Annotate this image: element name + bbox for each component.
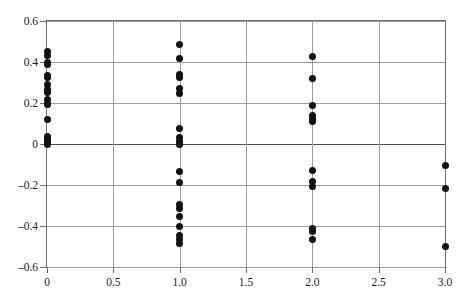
data-point: [44, 116, 51, 123]
data-point: [309, 118, 316, 125]
data-point: [44, 101, 51, 108]
data-point: [309, 183, 316, 190]
data-point: [44, 74, 51, 81]
data-point: [176, 41, 183, 48]
data-point: [176, 168, 183, 175]
gridline-vertical: [246, 21, 247, 267]
gridline-vertical: [379, 21, 380, 267]
y-axis-tick: [40, 185, 47, 186]
data-point: [309, 75, 316, 82]
x-axis-tick-label: 0.5: [106, 276, 120, 288]
x-axis-tick: [47, 267, 48, 273]
x-axis-tick: [312, 267, 313, 273]
data-point: [442, 162, 449, 169]
data-point: [176, 205, 183, 212]
data-point: [176, 240, 183, 247]
data-point: [309, 167, 316, 174]
x-axis-tick-label: 1.5: [239, 276, 253, 288]
x-axis-tick-label: 3.0: [438, 276, 452, 288]
data-point: [442, 243, 449, 250]
y-axis-tick: [40, 267, 47, 268]
x-axis-tick: [180, 267, 181, 273]
y-axis-tick-label: 0: [32, 138, 38, 150]
data-point: [176, 125, 183, 132]
data-point: [44, 61, 51, 68]
x-axis-tick-label: 1.0: [172, 276, 186, 288]
data-point: [309, 53, 316, 60]
y-axis-tick-label: –0.2: [18, 179, 38, 191]
data-point: [44, 89, 51, 96]
y-axis-tick-label: –0.6: [18, 261, 38, 273]
data-point: [176, 141, 183, 148]
x-axis-tick: [246, 267, 247, 273]
x-axis-tick-label: 0: [44, 276, 50, 288]
x-axis-tick: [379, 267, 380, 273]
data-point: [176, 223, 183, 230]
y-axis-tick-label: 0.2: [24, 97, 38, 109]
x-axis-tick: [113, 267, 114, 273]
x-axis-tick-label: 2.0: [305, 276, 319, 288]
y-axis-tick: [40, 21, 47, 22]
y-axis-tick-label: 0.4: [24, 56, 38, 68]
data-point: [176, 90, 183, 97]
x-axis-tick: [445, 267, 446, 273]
data-point: [442, 185, 449, 192]
data-point: [176, 74, 183, 81]
data-point: [309, 102, 316, 109]
y-axis-tick-label: 0.6: [24, 15, 38, 27]
data-point: [176, 213, 183, 220]
plot-area: 0.60.40.20–0.2–0.4–0.600.51.01.52.02.53.…: [46, 20, 446, 268]
data-point: [309, 236, 316, 243]
y-axis-tick: [40, 226, 47, 227]
x-axis-tick-label: 2.5: [371, 276, 385, 288]
scatter-chart: 0.60.40.20–0.2–0.4–0.600.51.01.52.02.53.…: [0, 0, 471, 299]
data-point: [309, 228, 316, 235]
y-axis-tick-label: –0.4: [18, 220, 38, 232]
gridline-vertical: [113, 21, 114, 267]
data-point: [44, 141, 51, 148]
